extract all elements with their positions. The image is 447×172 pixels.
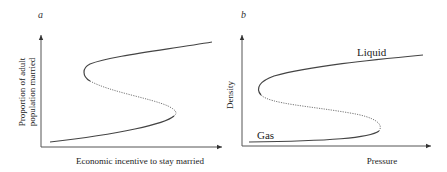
panel-a-middle-branch — [90, 81, 176, 116]
gas-label: Gas — [257, 129, 274, 141]
panel-a-upper-branch — [84, 42, 212, 81]
liquid-label: Liquid — [357, 46, 387, 58]
figure: a Economic incentive to stay married Pro… — [0, 0, 447, 172]
panel-a-lower-branch — [50, 116, 174, 142]
panel-a-label: a — [38, 9, 43, 20]
panel-b-label: b — [241, 9, 246, 20]
panel-a-y-label-line1: Proportion of adult — [17, 57, 27, 126]
panel-a-x-label: Economic incentive to stay married — [76, 156, 204, 166]
panel-b-middle-branch — [261, 95, 380, 131]
panel-b-y-label: Density — [225, 81, 235, 109]
panel-b: b Liquid Gas Pressure Density — [225, 9, 431, 166]
panel-b-x-label: Pressure — [367, 156, 398, 166]
panel-a: a Economic incentive to stay married Pro… — [17, 9, 222, 166]
panel-a-y-label-line2: population married — [27, 57, 37, 126]
panel-b-liquid-branch — [259, 55, 423, 95]
